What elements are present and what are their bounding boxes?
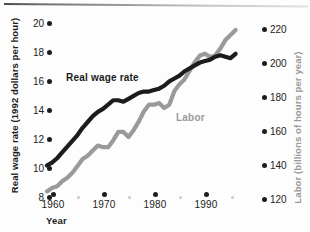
series-annotation-real-wage-rate: Real wage rate	[66, 72, 139, 83]
chart-figure: Real wage rate (1992 dollars per hour) L…	[0, 0, 310, 232]
labor-series-line	[47, 30, 236, 192]
real-wage-rate-series-line	[47, 54, 236, 166]
plot-area: Real wage rate (1992 dollars per hour) L…	[0, 0, 310, 232]
series-lines	[0, 0, 310, 232]
series-annotation-labor: Labor	[176, 112, 205, 123]
